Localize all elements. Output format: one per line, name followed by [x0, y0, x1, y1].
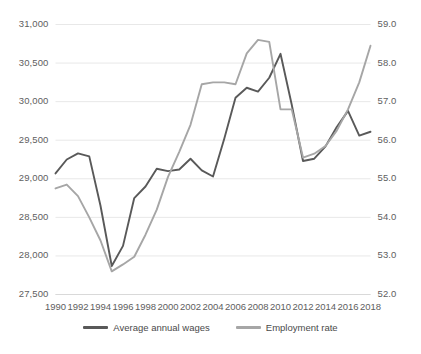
legend-item-label: Average annual wages [113, 322, 209, 333]
gridlines [56, 25, 371, 295]
dual-axis-line-chart: 31,00030,50030,00029,50029,00028,50028,0… [0, 0, 421, 354]
legend-item[interactable]: Employment rate [236, 322, 338, 333]
series-lines [56, 40, 371, 271]
plot-area [0, 0, 421, 354]
legend-item[interactable]: Average annual wages [83, 322, 209, 333]
legend-swatch-icon [83, 326, 108, 328]
legend-swatch-icon [236, 326, 261, 328]
chart-legend: Average annual wagesEmployment rate [0, 322, 421, 333]
series-line [56, 40, 371, 271]
series-line [56, 54, 371, 266]
legend-item-label: Employment rate [266, 322, 338, 333]
